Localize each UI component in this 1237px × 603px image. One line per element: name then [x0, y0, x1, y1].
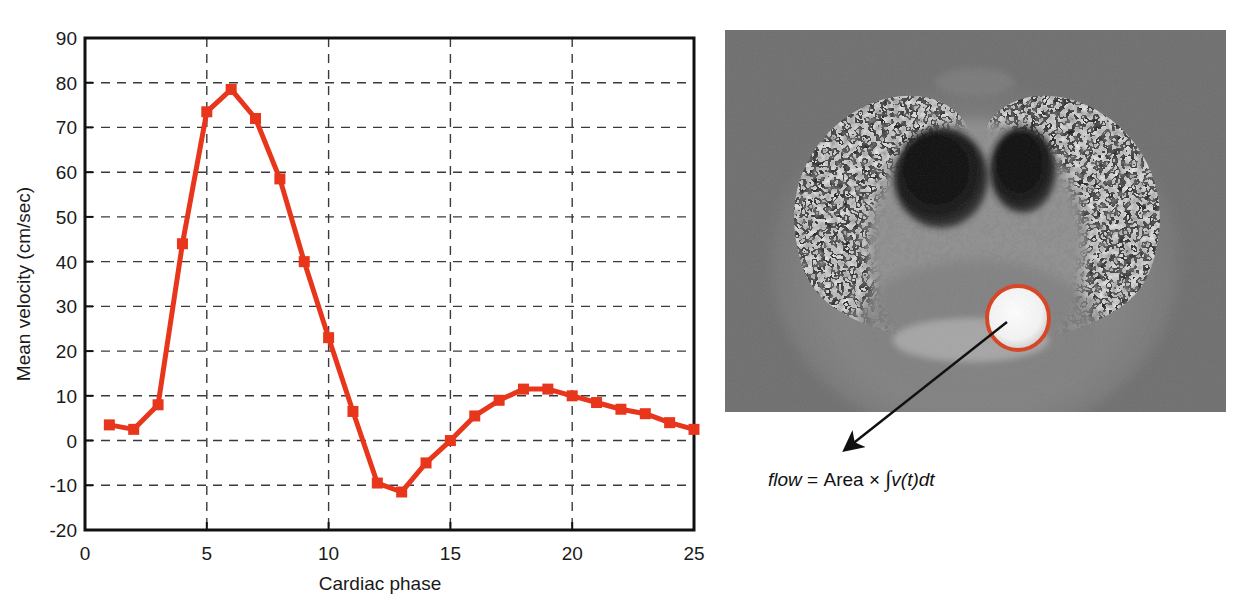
y-axis-title: Mean velocity (cm/sec) — [13, 187, 34, 381]
y-tick-label: 50 — [56, 207, 77, 228]
y-tick-label: 80 — [56, 73, 77, 94]
data-point-marker — [201, 106, 212, 117]
data-point-marker — [494, 395, 505, 406]
figure-root: 90 80 70 60 50 40 30 20 10 0 -10 -20 0 5… — [0, 0, 1237, 603]
x-tick-labels: 0 5 10 15 20 25 — [80, 543, 705, 564]
x-axis-title: Cardiac phase — [319, 573, 442, 594]
data-point-marker — [372, 478, 383, 489]
y-tick-label: 60 — [56, 162, 77, 183]
y-tick-label: -20 — [50, 520, 77, 541]
velocity-chart-panel: 90 80 70 60 50 40 30 20 10 0 -10 -20 0 5… — [0, 0, 710, 603]
data-point-marker — [347, 406, 358, 417]
data-point-marker — [469, 410, 480, 421]
data-point-marker — [664, 417, 675, 428]
data-point-marker — [518, 384, 529, 395]
data-point-marker — [689, 424, 700, 435]
flow-equation-caption: flow = Area × ∫v(t)dt — [768, 466, 1188, 492]
data-point-marker — [591, 397, 602, 408]
data-point-marker — [640, 408, 651, 419]
y-tick-label: 0 — [66, 431, 77, 452]
x-tick-label: 20 — [562, 543, 583, 564]
data-point-marker — [542, 384, 553, 395]
y-tick-label: 30 — [56, 296, 77, 317]
y-tick-label: 40 — [56, 252, 77, 273]
y-tick-label: 90 — [56, 28, 77, 49]
x-tick-label: 0 — [80, 543, 91, 564]
y-tick-label: -10 — [50, 475, 77, 496]
data-point-marker — [177, 238, 188, 249]
y-tick-label: 20 — [56, 341, 77, 362]
data-point-marker — [421, 457, 432, 468]
x-tick-label: 15 — [440, 543, 461, 564]
data-point-marker — [128, 424, 139, 435]
data-point-marker — [274, 173, 285, 184]
integrand-term: v(t)dt — [891, 469, 934, 490]
x-tick-label: 5 — [202, 543, 213, 564]
data-point-marker — [323, 332, 334, 343]
y-tick-labels: 90 80 70 60 50 40 30 20 10 0 -10 -20 — [50, 28, 77, 541]
image-grain-overlay — [725, 30, 1226, 412]
data-point-marker — [153, 399, 164, 410]
data-point-marker — [567, 390, 578, 401]
area-term: Area — [823, 469, 863, 490]
x-tick-label: 25 — [683, 543, 704, 564]
y-tick-label: 70 — [56, 117, 77, 138]
data-point-marker — [615, 404, 626, 415]
flow-term: flow — [768, 469, 802, 490]
data-point-marker — [104, 419, 115, 430]
velocity-line-chart: 90 80 70 60 50 40 30 20 10 0 -10 -20 0 5… — [0, 0, 710, 603]
data-point-marker — [299, 256, 310, 267]
equals-sign: = — [807, 469, 818, 490]
mr-image-panel: flow = Area × ∫v(t)dt — [710, 0, 1237, 603]
data-point-marker — [250, 113, 261, 124]
data-point-marker — [445, 435, 456, 446]
x-tick-label: 10 — [318, 543, 339, 564]
data-point-marker — [226, 84, 237, 95]
data-point-marker — [396, 486, 407, 497]
y-tick-label: 10 — [56, 386, 77, 407]
phase-contrast-mr-image — [725, 30, 1226, 412]
mr-image-graphic — [725, 30, 1226, 412]
multiplication-sign: × — [869, 469, 880, 490]
